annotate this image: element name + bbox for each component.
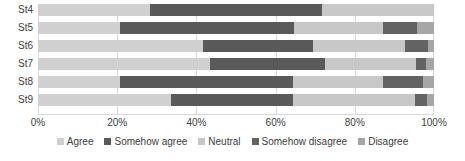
xtick-label-80: 80%	[335, 117, 375, 128]
bar-row	[38, 76, 434, 88]
legend-swatch-icon	[57, 138, 64, 145]
bar-segment-disagree	[423, 76, 434, 88]
legend-swatch-icon	[104, 138, 111, 145]
category-label-st5: St5	[0, 22, 33, 34]
bar-segment-somehow-agree	[171, 94, 293, 106]
bar-track-st6	[38, 40, 434, 52]
bar-row	[38, 40, 434, 52]
legend-label: Somehow disagree	[262, 136, 348, 147]
bar-segment-disagree	[426, 58, 434, 70]
bar-segment-somehow-agree	[203, 40, 313, 52]
bar-segment-disagree	[428, 40, 434, 52]
bar-segment-somehow-disagree	[405, 40, 428, 52]
stacked-bar-chart: St4St5St6St7St8St9 0%20%40%60%80%100% Ag…	[0, 0, 465, 161]
bar-track-st4	[38, 4, 434, 16]
legend-item-neutral[interactable]: Neutral	[198, 136, 240, 147]
bar-segment-neutral	[313, 40, 405, 52]
bar-track-st7	[38, 58, 434, 70]
bar-segment-somehow-agree	[210, 58, 325, 70]
xtick-label-20: 20%	[97, 117, 137, 128]
xtick-label-60: 60%	[256, 117, 296, 128]
legend-item-somehow-agree[interactable]: Somehow agree	[104, 136, 187, 147]
bar-segment-somehow-disagree	[383, 76, 423, 88]
xtick-label-0: 0%	[18, 117, 58, 128]
bar-track-st8	[38, 76, 434, 88]
bar-segment-agree	[38, 76, 120, 88]
bar-segment-neutral	[325, 58, 416, 70]
bar-row	[38, 58, 434, 70]
bar-segment-somehow-agree	[120, 76, 293, 88]
bar-segment-neutral	[322, 4, 434, 16]
legend-item-somehow-disagree[interactable]: Somehow disagree	[252, 136, 348, 147]
legend-swatch-icon	[252, 138, 259, 145]
bar-segment-somehow-disagree	[416, 58, 426, 70]
bar-row	[38, 94, 434, 106]
bar-segment-agree	[38, 40, 203, 52]
category-label-st6: St6	[0, 40, 33, 52]
xtick-label-100: 100%	[414, 117, 454, 128]
bar-segment-neutral	[294, 22, 383, 34]
bar-row	[38, 4, 434, 16]
bar-segment-agree	[38, 58, 210, 70]
bar-row	[38, 22, 434, 34]
category-label-st9: St9	[0, 94, 33, 106]
bar-segment-agree	[38, 4, 150, 16]
bar-segment-disagree	[427, 94, 434, 106]
chart-legend: AgreeSomehow agreeNeutralSomehow disagre…	[0, 136, 465, 147]
bar-segment-disagree	[417, 22, 434, 34]
legend-item-agree[interactable]: Agree	[57, 136, 94, 147]
legend-swatch-icon	[358, 138, 365, 145]
bar-track-st5	[38, 22, 434, 34]
category-label-st8: St8	[0, 76, 33, 88]
bar-segment-neutral	[293, 76, 383, 88]
bar-segment-agree	[38, 22, 120, 34]
category-label-st4: St4	[0, 4, 33, 16]
legend-swatch-icon	[198, 138, 205, 145]
legend-label: Disagree	[368, 136, 408, 147]
legend-label: Agree	[67, 136, 94, 147]
bar-segment-somehow-agree	[120, 22, 294, 34]
plot-area	[38, 4, 434, 114]
xtick-label-40: 40%	[176, 117, 216, 128]
x-axis-line	[38, 114, 434, 115]
legend-label: Somehow agree	[114, 136, 187, 147]
bar-track-st9	[38, 94, 434, 106]
legend-label: Neutral	[208, 136, 240, 147]
bar-segment-neutral	[293, 94, 415, 106]
bar-segment-somehow-agree	[150, 4, 322, 16]
category-label-st7: St7	[0, 58, 33, 70]
bar-segment-agree	[38, 94, 171, 106]
legend-item-disagree[interactable]: Disagree	[358, 136, 408, 147]
bar-segment-somehow-disagree	[415, 94, 427, 106]
bar-segment-somehow-disagree	[383, 22, 417, 34]
